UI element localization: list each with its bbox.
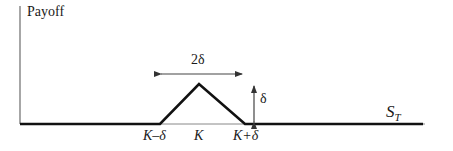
y-axis-label: Payoff: [27, 4, 64, 20]
tick-label-k-minus-delta: K–δ: [143, 128, 166, 144]
x-axis-label-main: S: [386, 102, 395, 121]
payoff-diagram: [0, 0, 453, 151]
width-annotation: 2δ: [191, 52, 205, 68]
payoff-line: [20, 84, 423, 124]
x-axis-label: ST: [386, 102, 401, 123]
tick-label-k-plus-delta: K+δ: [233, 128, 258, 144]
x-axis-label-sub: T: [395, 111, 401, 123]
height-annotation: δ: [260, 91, 267, 107]
tick-label-k: K: [194, 128, 203, 144]
